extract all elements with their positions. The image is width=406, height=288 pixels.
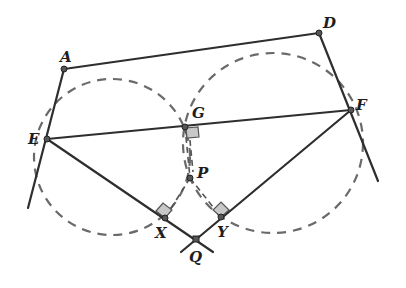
- label-A: A: [58, 48, 72, 66]
- point-Y: [218, 214, 224, 220]
- label-Q: Q: [189, 248, 202, 266]
- line-DF-extended: [319, 33, 378, 181]
- point-A: [61, 66, 67, 72]
- point-Q: [193, 236, 199, 242]
- line-EQ-extended: [47, 139, 213, 252]
- point-P: [187, 175, 193, 181]
- label-F: F: [355, 96, 368, 114]
- right-dashed-circle: [183, 53, 363, 233]
- point-F: [348, 107, 354, 113]
- geometry-diagram: A D E F G P X Y Q: [0, 0, 406, 288]
- label-D: D: [322, 14, 336, 32]
- point-E: [44, 136, 50, 142]
- label-E: E: [27, 130, 40, 148]
- segment-AD: [64, 33, 319, 69]
- label-X: X: [154, 224, 168, 242]
- point-X: [162, 215, 168, 221]
- point-D: [316, 30, 322, 36]
- label-P: P: [196, 164, 209, 182]
- label-Y: Y: [217, 223, 229, 241]
- label-G: G: [192, 104, 205, 122]
- point-G: [182, 124, 188, 130]
